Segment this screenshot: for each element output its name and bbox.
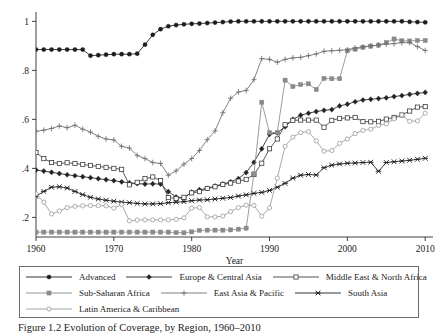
data-point-marker bbox=[345, 161, 351, 166]
data-point-marker bbox=[150, 202, 156, 207]
data-point-marker bbox=[34, 192, 38, 196]
data-point-marker bbox=[392, 94, 397, 99]
data-point-marker bbox=[112, 206, 116, 210]
data-point-marker bbox=[259, 146, 264, 151]
legend-marker-filled-square bbox=[24, 287, 74, 299]
series-line bbox=[36, 21, 425, 55]
data-point-marker bbox=[415, 20, 419, 24]
data-point-marker bbox=[236, 19, 240, 23]
data-point-marker bbox=[384, 117, 388, 121]
legend-entry-middle-east-north-africa[interactable]: Middle East & North Africa bbox=[271, 271, 436, 283]
legend-entry-advanced[interactable]: Advanced bbox=[24, 271, 124, 283]
legend-entry-sub-saharan-africa[interactable]: Sub-Saharan Africa bbox=[24, 287, 159, 299]
data-point-marker bbox=[290, 55, 295, 61]
data-point-marker bbox=[298, 173, 304, 178]
legend-entry-latin-america-caribbean[interactable]: Latin America & Caribbean bbox=[24, 303, 188, 315]
data-point-marker bbox=[399, 159, 405, 164]
data-point-marker bbox=[415, 119, 419, 123]
data-point-marker bbox=[88, 54, 92, 58]
data-point-marker bbox=[103, 136, 108, 142]
data-point-marker bbox=[392, 117, 396, 121]
data-point-marker bbox=[205, 21, 209, 25]
y-tick-label: .8 bbox=[22, 66, 29, 76]
data-point-marker bbox=[134, 201, 140, 206]
data-point-marker bbox=[112, 230, 116, 234]
data-point-marker bbox=[283, 78, 287, 82]
data-point-marker bbox=[376, 96, 381, 101]
data-point-marker bbox=[158, 179, 162, 183]
data-point-marker bbox=[166, 230, 170, 234]
data-point-marker bbox=[314, 51, 319, 57]
data-point-marker bbox=[384, 95, 389, 100]
data-point-marker bbox=[298, 113, 303, 118]
data-point-marker bbox=[205, 186, 209, 190]
data-point-marker bbox=[415, 44, 420, 50]
data-point-marker bbox=[306, 53, 311, 59]
data-point-marker bbox=[213, 20, 217, 24]
x-tick-label: 2010 bbox=[416, 244, 435, 254]
data-point-marker bbox=[166, 218, 170, 222]
data-point-marker bbox=[423, 38, 427, 42]
data-point-marker bbox=[150, 160, 155, 166]
data-point-marker bbox=[197, 228, 201, 232]
series-line bbox=[36, 39, 425, 233]
legend-entry-east-asia-pacific[interactable]: East Asia & Pacific bbox=[159, 287, 293, 299]
data-point-marker bbox=[282, 181, 288, 186]
data-point-marker bbox=[329, 163, 335, 168]
legend-entry-south-asia[interactable]: South Asia bbox=[293, 287, 396, 299]
data-point-marker bbox=[64, 186, 70, 191]
data-point-marker bbox=[322, 108, 327, 113]
series-line bbox=[36, 43, 425, 176]
data-point-marker bbox=[408, 119, 412, 123]
data-point-marker bbox=[143, 218, 147, 222]
data-point-marker bbox=[229, 228, 233, 232]
data-point-marker bbox=[283, 19, 287, 23]
data-point-marker bbox=[135, 230, 139, 234]
data-point-marker bbox=[392, 19, 396, 23]
data-point-marker bbox=[415, 91, 420, 96]
legend-entry-europe-central-asia[interactable]: Europe & Central Asia bbox=[124, 271, 270, 283]
data-point-marker bbox=[244, 177, 248, 181]
data-point-marker bbox=[42, 156, 46, 160]
data-point-marker bbox=[73, 230, 77, 234]
legend-label: Latin America & Caribbean bbox=[79, 304, 179, 314]
data-point-marker bbox=[391, 159, 397, 164]
data-point-marker bbox=[299, 118, 303, 122]
data-point-marker bbox=[120, 167, 124, 171]
data-point-marker bbox=[407, 92, 412, 97]
data-point-marker bbox=[383, 160, 389, 165]
data-point-marker bbox=[408, 20, 412, 24]
data-point-marker bbox=[174, 230, 178, 234]
data-point-marker bbox=[267, 57, 272, 63]
data-point-marker bbox=[275, 137, 279, 141]
data-point-marker bbox=[42, 230, 46, 234]
data-point-marker bbox=[190, 206, 194, 210]
data-point-marker bbox=[314, 109, 319, 114]
data-point-marker bbox=[294, 275, 298, 279]
data-point-marker bbox=[104, 53, 108, 57]
data-point-marker bbox=[353, 99, 358, 104]
line-chart-plot: .2.4.6.81196019701980199020002010Year bbox=[0, 0, 438, 266]
data-point-marker bbox=[260, 19, 264, 23]
data-point-marker bbox=[80, 174, 85, 179]
data-point-marker bbox=[360, 160, 366, 165]
data-point-marker bbox=[57, 171, 62, 176]
data-point-marker bbox=[252, 19, 256, 23]
data-point-marker bbox=[34, 150, 38, 154]
data-point-marker bbox=[49, 185, 55, 190]
data-point-marker bbox=[127, 52, 131, 56]
data-point-marker bbox=[400, 113, 404, 117]
data-point-marker bbox=[244, 226, 248, 230]
data-point-marker bbox=[345, 19, 349, 23]
data-point-marker bbox=[73, 173, 78, 178]
data-point-marker bbox=[57, 123, 62, 129]
data-point-marker bbox=[353, 131, 357, 135]
data-point-marker bbox=[81, 162, 85, 166]
data-point-marker bbox=[337, 103, 342, 108]
data-point-marker bbox=[408, 109, 412, 113]
data-point-marker bbox=[73, 47, 77, 51]
data-point-marker bbox=[322, 76, 326, 80]
data-point-marker bbox=[112, 52, 116, 56]
data-point-marker bbox=[190, 230, 194, 234]
figure-container: .2.4.6.81196019701980199020002010Year Ad… bbox=[0, 0, 438, 334]
